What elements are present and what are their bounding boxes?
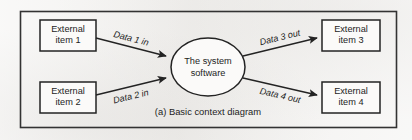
context-diagram: External item 1 External item 2 External… <box>0 0 412 140</box>
figure-caption: (a) Basic context diagram <box>155 106 261 117</box>
flow-1-label: Data 1 in <box>112 29 149 48</box>
flow-data-2-in: Data 2 in <box>96 78 166 106</box>
entity-1-label-line2: item 1 <box>55 35 80 45</box>
entity-2-label-line1: External <box>51 86 85 96</box>
entity-external-item-1: External item 1 <box>40 20 96 51</box>
entity-4-label-line1: External <box>334 86 368 96</box>
process-the-system-software: The system software <box>171 38 245 96</box>
process-label-line1: The system <box>184 56 232 66</box>
entity-1-label-line1: External <box>51 24 85 34</box>
flow-4-label: Data 4 out <box>259 86 302 105</box>
entity-3-label-line1: External <box>334 24 368 34</box>
entity-3-label-line2: item 3 <box>338 35 363 45</box>
entity-external-item-3: External item 3 <box>322 20 380 51</box>
flow-3-label: Data 3 out <box>258 27 301 47</box>
flow-data-3-out: Data 3 out <box>243 27 317 56</box>
process-ellipse <box>171 38 245 96</box>
flow-data-1-in: Data 1 in <box>96 29 166 56</box>
flow-data-4-out: Data 4 out <box>243 78 317 105</box>
entity-2-label-line2: item 2 <box>55 97 80 107</box>
figure-page: External item 1 External item 2 External… <box>0 0 412 140</box>
entity-4-label-line2: item 4 <box>338 97 363 107</box>
entity-external-item-4: External item 4 <box>322 82 380 113</box>
process-label-line2: software <box>191 68 226 78</box>
entity-external-item-2: External item 2 <box>40 82 96 113</box>
